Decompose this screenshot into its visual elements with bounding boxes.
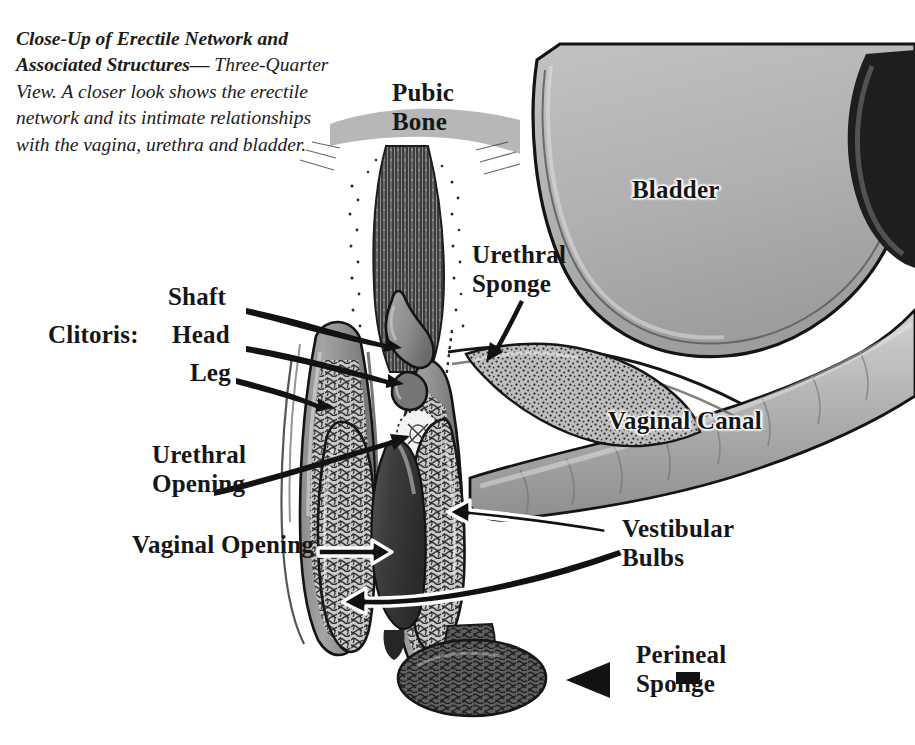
label-urethral-opening: Urethral Opening (152, 440, 246, 498)
label-clitoris-shaft: Shaft (168, 282, 226, 311)
label-bladder: Bladder (632, 175, 720, 204)
label-vaginal-canal: Vaginal Canal (608, 406, 762, 435)
label-urethral-sponge: Urethral Sponge (472, 240, 566, 298)
label-vestibular-bulbs: Vestibular Bulbs (622, 514, 734, 572)
label-clitoris-group: Clitoris: (48, 320, 139, 349)
label-clitoris-head: Head (172, 320, 230, 349)
label-vaginal-opening: Vaginal Opening (132, 530, 314, 559)
figure-caption: Close-Up of Erectile Network and Associa… (16, 26, 336, 158)
anatomical-figure-page: Close-Up of Erectile Network and Associa… (0, 0, 915, 745)
label-pubic-bone: Pubic Bone (392, 78, 454, 136)
label-clitoris-leg: Leg (190, 358, 231, 387)
label-perineal-sponge: Perineal Sponge (636, 640, 726, 698)
